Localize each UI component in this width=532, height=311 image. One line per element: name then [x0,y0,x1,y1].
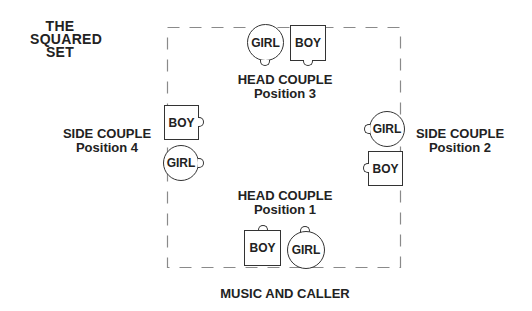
position-1-label: HEAD COUPLE Position 1 [225,189,345,217]
girl-label: GIRL [251,36,280,50]
girl-label: GIRL [373,122,402,136]
girl-position-4: GIRL [163,145,199,181]
couple-heading: HEAD COUPLE [238,188,333,203]
title-line-3: SET [30,46,90,59]
boy-label: BOY [372,162,398,176]
footer-text: MUSIC AND CALLER [220,286,350,301]
position-number: Position 1 [225,203,345,217]
boy-position-2: BOY [368,151,403,186]
girl-position-3: GIRL [247,24,284,61]
girl-label: GIRL [292,243,321,257]
couple-heading: HEAD COUPLE [238,72,333,87]
girl-position-1: GIRL [287,231,325,269]
boy-label: BOY [295,36,321,50]
position-number: Position 3 [225,87,345,101]
couple-heading: SIDE COUPLE [63,126,151,141]
position-3-label: HEAD COUPLE Position 3 [225,73,345,101]
boy-label: BOY [249,241,275,255]
boy-label: BOY [168,116,194,130]
position-4-label: SIDE COUPLE Position 4 [47,127,167,155]
girl-label: GIRL [167,156,196,170]
facing-nub-icon [364,124,370,134]
music-and-caller-label: MUSIC AND CALLER [205,287,365,301]
boy-position-4: BOY [164,105,199,140]
boy-position-1: BOY [244,230,281,266]
position-number: Position 4 [47,141,167,155]
position-2-label: SIDE COUPLE Position 2 [400,127,520,155]
diagram-title: THE SQUARED SET [30,20,90,59]
boy-position-3: BOY [290,25,326,61]
facing-nub-icon [363,163,369,173]
couple-heading: SIDE COUPLE [416,126,504,141]
position-number: Position 2 [400,141,520,155]
